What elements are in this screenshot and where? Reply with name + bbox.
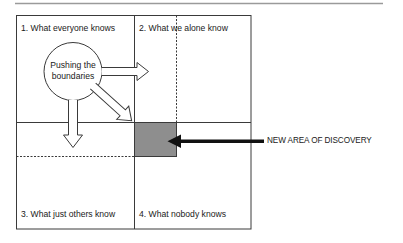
quadrant-1-label: 1. What everyone knows (21, 24, 115, 33)
arrow-down-icon (64, 100, 83, 148)
boundaries-circle-label: Pushing the boundaries (44, 60, 102, 82)
boundaries-circle-line-2: boundaries (44, 71, 102, 82)
callout-arrow-icon (168, 135, 265, 149)
quadrant-4-label: 4. What nobody knows (139, 210, 226, 219)
discovery-callout-label: NEW AREA OF DISCOVERY (267, 137, 372, 145)
quadrant-3-label: 3. What just others know (21, 210, 115, 219)
arrow-right-icon (102, 63, 149, 81)
boundaries-circle-line-1: Pushing the (44, 60, 102, 71)
arrow-diagonal-icon (87, 79, 138, 127)
diagram-canvas (0, 0, 403, 243)
quadrant-2-label: 2. What we alone know (139, 24, 228, 33)
discovery-area (135, 123, 177, 157)
